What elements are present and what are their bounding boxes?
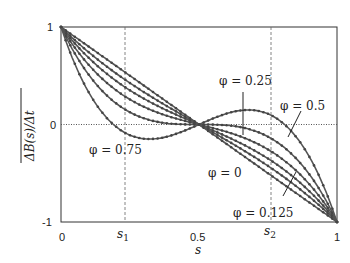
- y-axis-label: ΔB(s)/Δt: [21, 88, 37, 163]
- x-tick-s2: s2: [264, 224, 276, 240]
- x-tick-s1: s1: [117, 227, 129, 243]
- annotation-phi-0-125: φ = 0.125: [233, 206, 293, 220]
- annotation-phi-0-25: φ = 0.25: [219, 74, 272, 88]
- y-tick-0: 0: [50, 119, 56, 131]
- x-tick-1: 1: [334, 231, 340, 243]
- x-tick-0: 0: [59, 231, 65, 243]
- chart: 1 0 -1 0 s1 0.5 s2 1 s ΔB(s)/Δt φ = 0.25…: [0, 0, 350, 263]
- annotation-phi-0: φ = 0: [208, 166, 242, 180]
- svg-text:ΔB(s)/Δt: ΔB(s)/Δt: [23, 110, 37, 162]
- annotation-phi-0-75: φ = 0.75: [89, 143, 142, 157]
- annotation-phi-0-5: φ = 0.5: [280, 99, 325, 113]
- x-tick-0-5: 0.5: [190, 231, 205, 243]
- x-axis-label: s: [195, 243, 201, 257]
- y-tick-1: 1: [47, 21, 53, 33]
- y-tick-neg1: -1: [42, 216, 52, 228]
